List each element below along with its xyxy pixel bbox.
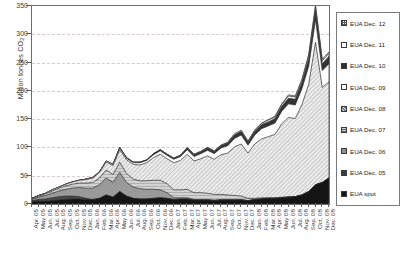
x-tick-mark [247, 203, 248, 207]
x-tick-mark [112, 203, 113, 207]
x-tick-mark [274, 203, 275, 207]
x-tick-mark [321, 203, 322, 207]
x-tick-mark [132, 203, 133, 207]
x-tick-mark [308, 203, 309, 207]
x-tick-mark [38, 203, 39, 207]
legend-swatch-icon [341, 42, 347, 48]
x-axis-tick-labels: Apr. 05May 05Jun. 05Jul. 05Aug. 05Sep. 0… [31, 209, 328, 257]
stacked-area-series [32, 6, 329, 204]
legend-item[interactable]: EUA Dec. 07 [341, 126, 385, 133]
x-tick-mark [92, 203, 93, 207]
x-tick-mark [139, 203, 140, 207]
legend-swatch-icon [341, 127, 347, 133]
x-tick-mark [173, 203, 174, 207]
legend-swatch-icon [341, 84, 347, 90]
x-tick-mark [200, 203, 201, 207]
x-tick-mark [261, 203, 262, 207]
x-tick-mark [288, 203, 289, 207]
x-tick-mark [207, 203, 208, 207]
x-tick-mark [180, 203, 181, 207]
legend-label: EUA Dec. 12 [350, 20, 385, 27]
x-tick-mark [315, 203, 316, 207]
legend-label: EUA Dec. 08 [350, 105, 385, 112]
plot-area [31, 5, 330, 205]
legend-label: EUA Dec. 11 [350, 41, 385, 48]
x-tick-mark [105, 203, 106, 207]
legend-item[interactable]: EUA spot [341, 190, 376, 197]
x-tick-mark [227, 203, 228, 207]
x-tick-mark [58, 203, 59, 207]
x-tick-mark [72, 203, 73, 207]
legend-label: EUA Dec. 10 [350, 62, 385, 69]
x-tick-mark [51, 203, 52, 207]
x-tick-mark [78, 203, 79, 207]
x-tick-mark [220, 203, 221, 207]
x-tick-mark [281, 203, 282, 207]
x-tick-mark [45, 203, 46, 207]
x-tick-mark [166, 203, 167, 207]
chart-legend: EUA Dec. 12EUA Dec. 11EUA Dec. 10EUA Dec… [336, 12, 400, 206]
legend-swatch-icon [341, 63, 347, 69]
legend-label: EUA Dec. 09 [350, 84, 385, 91]
legend-item[interactable]: EUA Dec. 08 [341, 105, 385, 112]
legend-swatch-icon [341, 191, 347, 197]
legend-item[interactable]: EUA Dec. 05 [341, 169, 385, 176]
x-tick-mark [213, 203, 214, 207]
legend-item[interactable]: EUA Dec. 10 [341, 62, 385, 69]
x-tick-mark [119, 203, 120, 207]
legend-swatch-icon [341, 148, 347, 154]
area-chart-svg [32, 6, 329, 204]
x-tick-mark [234, 203, 235, 207]
legend-item[interactable]: EUA Dec. 09 [341, 84, 385, 91]
x-tick-mark [240, 203, 241, 207]
x-tick-mark [85, 203, 86, 207]
x-tick-mark [99, 203, 100, 207]
legend-label: EUA Dec. 05 [350, 169, 385, 176]
x-tick-mark [294, 203, 295, 207]
legend-item[interactable]: EUA Dec. 06 [341, 148, 385, 155]
legend-item[interactable]: EUA Dec. 11 [341, 41, 385, 48]
x-tick-mark [328, 203, 329, 207]
x-tick-mark [126, 203, 127, 207]
x-tick-mark [159, 203, 160, 207]
legend-swatch-icon [341, 170, 347, 176]
x-tick-mark [186, 203, 187, 207]
legend-label: EUA Dec. 07 [350, 126, 385, 133]
legend-label: EUA spot [350, 190, 376, 197]
x-tick-mark [254, 203, 255, 207]
x-tick-mark [301, 203, 302, 207]
x-tick-mark [267, 203, 268, 207]
legend-swatch-icon [341, 106, 347, 112]
x-tick-mark [65, 203, 66, 207]
legend-swatch-icon [341, 20, 347, 26]
legend-label: EUA Dec. 06 [350, 148, 385, 155]
x-tick-label: Dec. 08 [330, 209, 336, 230]
x-tick-mark [31, 203, 32, 207]
x-tick-mark [153, 203, 154, 207]
x-tick-mark [146, 203, 147, 207]
legend-item[interactable]: EUA Dec. 12 [341, 20, 385, 27]
chart-figure: Million tonnes CO2 050100150200250300350 [0, 0, 400, 257]
area-series-5 [32, 42, 329, 204]
x-tick-mark [193, 203, 194, 207]
